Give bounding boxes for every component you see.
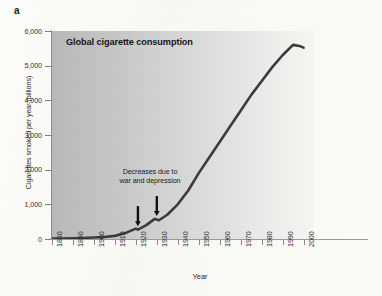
y-axis-line bbox=[51, 30, 52, 240]
x-tick-label-1940: 1940 bbox=[181, 231, 190, 247]
x-tick-1880 bbox=[52, 240, 53, 245]
x-tick-1910 bbox=[115, 240, 116, 245]
x-tick-label-1910: 1910 bbox=[118, 231, 127, 247]
x-tick-label-1980: 1980 bbox=[265, 231, 274, 247]
x-tick-1900 bbox=[94, 240, 95, 245]
plot-area: Global cigarette consumption Decreases d… bbox=[52, 31, 314, 239]
x-tick-1920 bbox=[136, 240, 137, 245]
x-tick-label-1890: 1890 bbox=[76, 231, 85, 247]
y-tick-6000 bbox=[45, 31, 51, 32]
x-axis-title: Year bbox=[0, 272, 382, 281]
x-tick-label-1950: 1950 bbox=[202, 231, 211, 247]
x-tick-label-1990: 1990 bbox=[286, 231, 295, 247]
x-tick-1970 bbox=[241, 240, 242, 245]
panel-label: a bbox=[14, 5, 20, 16]
x-tick-label-1970: 1970 bbox=[244, 231, 253, 247]
y-tick-1000 bbox=[45, 204, 51, 205]
x-tick-2000 bbox=[304, 240, 305, 245]
x-tick-label-1920: 1920 bbox=[139, 231, 148, 247]
x-tick-1990 bbox=[283, 240, 284, 245]
x-tick-label-1960: 1960 bbox=[223, 231, 232, 247]
figure-panel: a Global cigarette consumption Decreases… bbox=[0, 0, 382, 296]
x-tick-1940 bbox=[178, 240, 179, 245]
y-tick-2000 bbox=[45, 170, 51, 171]
y-tick-4000 bbox=[45, 100, 51, 101]
arrow-group bbox=[135, 196, 160, 226]
x-tick-label-1880: 1880 bbox=[55, 231, 64, 247]
y-axis-title: Cigarettes smoked per year (billions) bbox=[24, 43, 33, 223]
annotation-arrows bbox=[52, 31, 314, 239]
y-tick-label-0: 0 bbox=[38, 235, 42, 244]
y-tick-5000 bbox=[45, 66, 51, 67]
x-tick-label-2000: 2000 bbox=[307, 231, 316, 247]
arrow-1930 bbox=[154, 196, 160, 216]
x-tick-label-1930: 1930 bbox=[160, 231, 169, 247]
x-tick-1890 bbox=[73, 240, 74, 245]
x-tick-1950 bbox=[199, 240, 200, 245]
x-tick-label-1900: 1900 bbox=[97, 231, 106, 247]
x-tick-1960 bbox=[220, 240, 221, 245]
arrow-1920 bbox=[135, 206, 141, 226]
y-tick-3000 bbox=[45, 135, 51, 136]
x-tick-1930 bbox=[157, 240, 158, 245]
y-tick-label-6000: 6,000 bbox=[25, 27, 43, 36]
y-tick-0 bbox=[45, 239, 51, 240]
x-tick-1980 bbox=[262, 240, 263, 245]
